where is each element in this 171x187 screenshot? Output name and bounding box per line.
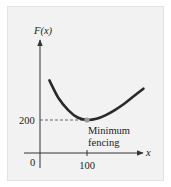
annotation-line-1: Minimum <box>88 125 130 136</box>
x-tick-label: 100 <box>79 160 95 171</box>
x-axis-label: x <box>145 147 151 158</box>
minimum-point <box>84 117 89 122</box>
origin-label: 0 <box>30 157 35 168</box>
y-axis-label: F(x) <box>33 25 53 37</box>
function-graph: F(x) x 0 100 200 Minimum fencing <box>0 0 171 187</box>
f-curve <box>49 80 143 120</box>
annotation-line-2: fencing <box>88 137 120 148</box>
y-tick-label: 200 <box>19 115 35 126</box>
